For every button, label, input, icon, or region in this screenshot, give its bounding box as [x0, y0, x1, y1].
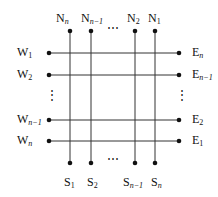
- label-west-2: W2: [17, 68, 32, 84]
- label-west-n-minus-1: Wn−1: [17, 113, 42, 129]
- west-dot: [47, 139, 52, 144]
- south-ellipsis: ⋯: [107, 153, 119, 165]
- label-south-n-minus-1: Sn−1: [123, 176, 143, 192]
- west-dot: [47, 118, 52, 123]
- label-east-1: E1: [192, 134, 203, 150]
- label-west-n: Wn: [17, 134, 32, 150]
- label-south-1: S1: [64, 176, 75, 192]
- east-dot: [177, 51, 182, 56]
- south-dot: [153, 161, 158, 166]
- east-dot: [177, 73, 182, 78]
- north-dot: [68, 29, 73, 34]
- south-dot: [133, 161, 138, 166]
- west-vertical-ellipsis: ⋮: [46, 89, 58, 101]
- label-north-1: N1: [148, 12, 161, 28]
- label-south-n: Sn: [151, 176, 162, 192]
- label-south-2: S2: [87, 176, 98, 192]
- east-vertical-ellipsis: ⋮: [176, 89, 188, 101]
- label-east-n-minus-1: En−1: [192, 68, 213, 84]
- east-dot: [177, 139, 182, 144]
- south-dot: [68, 161, 73, 166]
- north-dot: [89, 29, 94, 34]
- label-east-n: En: [192, 46, 203, 62]
- north-ellipsis: ⋯: [107, 22, 119, 34]
- label-east-2: E2: [192, 113, 203, 129]
- west-dot: [47, 73, 52, 78]
- label-north-2: N2: [127, 12, 140, 28]
- north-dot: [133, 29, 138, 34]
- east-dot: [177, 118, 182, 123]
- label-north-n-minus-1: Nn−1: [81, 12, 103, 28]
- south-dot: [89, 161, 94, 166]
- north-dot: [153, 29, 158, 34]
- label-west-1: W1: [17, 46, 32, 62]
- west-dot: [47, 51, 52, 56]
- label-north-n: Nn: [56, 12, 69, 28]
